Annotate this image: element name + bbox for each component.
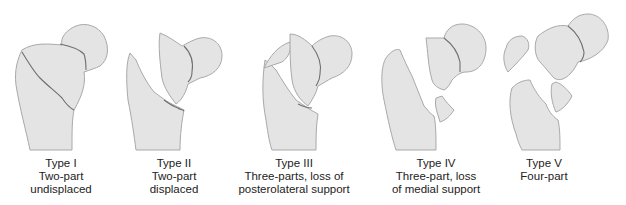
femur-three-part-medial-icon bbox=[382, 24, 486, 150]
femur-two-part-undisplaced-icon bbox=[15, 24, 107, 150]
femur-two-part-displaced-icon bbox=[127, 33, 222, 150]
caption-type-label: Type II bbox=[104, 157, 244, 170]
caption-line-2: of medial support bbox=[366, 183, 506, 196]
caption-type-label: Type III bbox=[224, 157, 364, 170]
fracture-classification-figure: Type I Two-part undisplaced Type II Two-… bbox=[0, 0, 626, 205]
femur-four-part-icon bbox=[504, 14, 608, 150]
caption-line-1: Three-parts, loss of bbox=[224, 170, 364, 183]
femur-three-part-posterolateral-icon bbox=[263, 34, 352, 150]
caption-line-2: displaced bbox=[104, 183, 244, 196]
caption-type-3: Type III Three-parts, loss of posterolat… bbox=[224, 157, 364, 196]
caption-line-1: Two-part bbox=[104, 170, 244, 183]
caption-type-2: Type II Two-part displaced bbox=[104, 157, 244, 196]
caption-type-5: Type V Four-part bbox=[474, 157, 614, 183]
caption-line-2: posterolateral support bbox=[224, 183, 364, 196]
caption-line-1: Four-part bbox=[474, 170, 614, 183]
caption-type-label: Type V bbox=[474, 157, 614, 170]
